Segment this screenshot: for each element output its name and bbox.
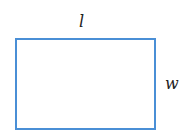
rectangle-shape bbox=[15, 38, 156, 130]
length-label: l bbox=[79, 14, 84, 30]
width-label: w bbox=[165, 76, 179, 92]
